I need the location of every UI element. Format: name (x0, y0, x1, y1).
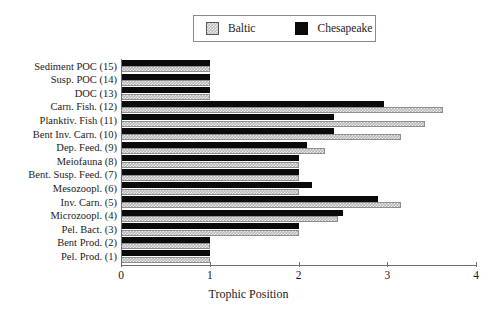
bar-baltic (121, 243, 210, 249)
bar-chesapeake (121, 210, 343, 216)
y-axis-category-label: Bent. Susp. Feed. (7) (0, 170, 117, 181)
bar-chesapeake (121, 74, 210, 80)
x-axis-tick-label: 1 (207, 269, 213, 281)
x-axis-tick-label: 2 (296, 269, 302, 281)
bar-chesapeake (121, 128, 334, 134)
y-axis-category-label: Mesozoopl. (6) (0, 184, 117, 195)
bar-chesapeake (121, 114, 334, 120)
bar-baltic (121, 189, 299, 195)
bar-chesapeake (121, 182, 312, 188)
y-axis-category-label: Inv. Carn. (5) (0, 198, 117, 209)
y-axis-category-label: Bent Prod. (2) (0, 238, 117, 249)
bar-chesapeake (121, 250, 210, 256)
y-axis-category-label: Planktiv. Fish (11) (0, 116, 117, 127)
x-axis-tick (299, 262, 300, 267)
bar-chesapeake (121, 223, 299, 229)
y-axis-category-label: Susp. POC (14) (0, 75, 117, 86)
bar-baltic (121, 121, 425, 127)
x-axis-tick (476, 262, 477, 267)
y-axis-category-label: Meiofauna (8) (0, 157, 117, 168)
bar-baltic (121, 230, 299, 236)
bar-baltic (121, 175, 299, 181)
y-axis-category-label: Dep. Feed. (9) (0, 143, 117, 154)
bar-baltic (121, 94, 210, 100)
bar-chesapeake (121, 155, 299, 161)
bar-chesapeake (121, 101, 384, 107)
legend-label-chesapeake: Chesapeake (317, 23, 372, 35)
x-axis-tick-label: 0 (118, 269, 124, 281)
x-axis-tick-label: 3 (384, 269, 390, 281)
bar-baltic (121, 66, 210, 72)
y-axis-category-label: Microzoopl. (4) (0, 211, 117, 222)
x-axis-tick-label: 4 (473, 269, 479, 281)
legend-swatch-chesapeake-icon (295, 22, 308, 35)
x-axis-tick (210, 262, 211, 267)
legend-entry-baltic: Baltic (206, 22, 255, 35)
bar-baltic (121, 202, 401, 208)
legend-label-baltic: Baltic (228, 23, 255, 35)
bar-baltic (121, 162, 299, 168)
bar-chesapeake (121, 142, 307, 148)
x-axis-tick (121, 262, 122, 267)
y-axis-category-label: Carn. Fish. (12) (0, 102, 117, 113)
trophic-position-bar-chart: Baltic Chesapeake Sediment POC (15)Susp.… (0, 0, 497, 313)
bar-baltic (121, 80, 210, 86)
bar-baltic (121, 134, 401, 140)
y-axis-category-label: Pel. Bact. (3) (0, 225, 117, 236)
bar-baltic (121, 216, 338, 222)
y-axis-category-label: DOC (13) (0, 89, 117, 100)
legend-entry-chesapeake: Chesapeake (295, 22, 372, 35)
y-axis-category-label: Sediment POC (15) (0, 62, 117, 73)
bar-chesapeake (121, 237, 210, 243)
bar-baltic (121, 107, 443, 113)
bar-chesapeake (121, 169, 299, 175)
legend-swatch-baltic-icon (206, 22, 219, 35)
bar-chesapeake (121, 196, 378, 202)
y-axis-category-label: Pel. Prod. (1) (0, 252, 117, 263)
bar-baltic (121, 148, 325, 154)
x-axis-title: Trophic Position (0, 287, 497, 302)
bar-chesapeake (121, 87, 210, 93)
x-axis-tick (387, 262, 388, 267)
chart-legend: Baltic Chesapeake (193, 15, 376, 42)
y-axis-line (121, 59, 122, 266)
bar-chesapeake (121, 60, 210, 66)
bar-baltic (121, 257, 210, 263)
y-axis-category-label: Bent Inv. Carn. (10) (0, 130, 117, 141)
